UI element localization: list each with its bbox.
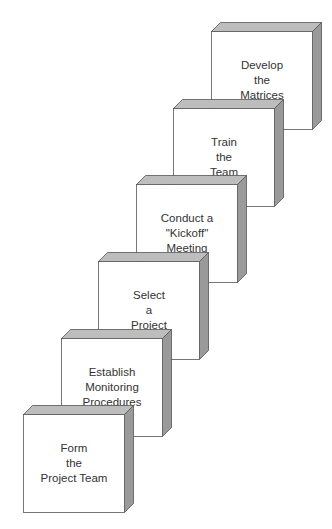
step-label-line-1: Develop — [241, 58, 283, 73]
step-label-line-2: Monitoring — [85, 380, 139, 395]
step-label-line-1: Establish — [89, 365, 136, 380]
step-label-line-1: Form — [61, 441, 88, 456]
step-label-line-1: Conduct a — [161, 211, 213, 226]
step-label: Form the Project Team — [23, 414, 125, 512]
step-label-line-2: a — [146, 303, 152, 318]
step-label-line-3: Project Team — [41, 471, 108, 486]
step-label-line-1: Train — [211, 135, 237, 150]
step-label-line-2: "Kickoff" — [166, 226, 208, 241]
step-label-line-1: Select — [133, 288, 165, 303]
step-label-line-2: the — [216, 150, 232, 165]
step-label-line-2: the — [66, 456, 82, 471]
step-label-line-2: the — [254, 73, 270, 88]
step-block-1: Form the Project Team — [23, 405, 134, 512]
